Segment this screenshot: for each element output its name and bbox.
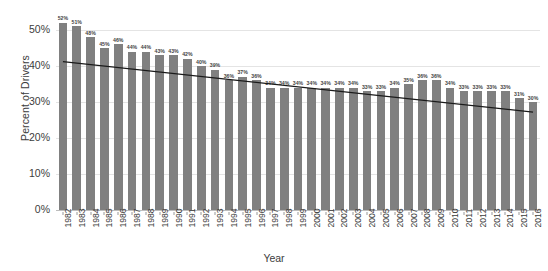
bar[interactable] — [266, 88, 275, 210]
bar-slot: 35% — [402, 12, 416, 210]
bar-value-label: 34% — [320, 80, 330, 86]
bar-slot: 44% — [139, 12, 153, 210]
x-axis-slot: 2000 — [305, 212, 319, 250]
x-axis-slot: 1997 — [263, 212, 277, 250]
bar[interactable] — [169, 55, 178, 210]
x-axis-slot: 1988 — [139, 212, 153, 250]
bar[interactable] — [155, 55, 164, 210]
bar[interactable] — [363, 91, 372, 210]
y-axis-tick-label: 20% — [6, 131, 50, 143]
bar-slot: 46% — [111, 12, 125, 210]
bar-value-label: 34% — [334, 80, 344, 86]
bar[interactable] — [446, 88, 455, 210]
bar[interactable] — [114, 44, 123, 210]
bar[interactable] — [473, 91, 482, 210]
bar[interactable] — [349, 88, 358, 210]
bar[interactable] — [529, 102, 538, 210]
bar[interactable] — [280, 88, 289, 210]
x-axis-labels: 1982198319841985198619871988198919901991… — [56, 212, 540, 250]
x-axis-slot: 1995 — [236, 212, 250, 250]
x-axis-slot: 1996 — [250, 212, 264, 250]
bar[interactable] — [72, 26, 81, 210]
y-axis-tick-label: 30% — [6, 95, 50, 107]
x-axis-slot: 2008 — [416, 212, 430, 250]
bar[interactable] — [487, 91, 496, 210]
bar-slot: 34% — [333, 12, 347, 210]
bar-value-label: 43% — [168, 48, 178, 54]
bar-slot: 30% — [526, 12, 540, 210]
x-axis-slot: 2011 — [457, 212, 471, 250]
bar-value-label: 52% — [58, 15, 68, 21]
bar-slot: 34% — [388, 12, 402, 210]
bar-value-label: 39% — [210, 62, 220, 68]
bar-value-label: 44% — [141, 44, 151, 50]
bar-slot: 34% — [277, 12, 291, 210]
bar[interactable] — [197, 66, 206, 210]
bar-slot: 34% — [346, 12, 360, 210]
bar[interactable] — [211, 70, 220, 210]
bar[interactable] — [142, 52, 151, 210]
bar-slot: 36% — [250, 12, 264, 210]
bar-slot: 37% — [236, 12, 250, 210]
bar[interactable] — [390, 88, 399, 210]
bar-slot: 52% — [56, 12, 70, 210]
bar-value-label: 34% — [445, 80, 455, 86]
bar[interactable] — [432, 80, 441, 210]
bar-value-label: 44% — [127, 44, 137, 50]
bar-value-label: 33% — [459, 84, 469, 90]
bar-value-label: 34% — [265, 80, 275, 86]
x-axis-slot: 1984 — [84, 212, 98, 250]
y-axis-tick-label: 40% — [6, 59, 50, 71]
bar[interactable] — [418, 80, 427, 210]
bar-value-label: 34% — [307, 80, 317, 86]
x-axis-slot: 2005 — [374, 212, 388, 250]
bar[interactable] — [294, 88, 303, 210]
x-axis-slot: 1985 — [97, 212, 111, 250]
bar-slot: 36% — [416, 12, 430, 210]
bar-value-label: 42% — [182, 51, 192, 57]
bar-slot: 33% — [471, 12, 485, 210]
bar[interactable] — [59, 23, 68, 210]
bar-slot: 34% — [305, 12, 319, 210]
bar-value-label: 34% — [293, 80, 303, 86]
bar[interactable] — [321, 88, 330, 210]
bar-slot: 43% — [167, 12, 181, 210]
bar[interactable] — [183, 59, 192, 210]
bar[interactable] — [86, 37, 95, 210]
x-axis-slot: 2016 — [526, 212, 540, 250]
x-axis-slot: 1990 — [167, 212, 181, 250]
bar[interactable] — [252, 80, 261, 210]
x-axis-slot: 1998 — [277, 212, 291, 250]
bar[interactable] — [225, 80, 234, 210]
x-axis-slot: 1994 — [222, 212, 236, 250]
bar[interactable] — [377, 91, 386, 210]
bar-value-label: 40% — [196, 59, 206, 65]
bar-slot: 33% — [360, 12, 374, 210]
bar[interactable] — [335, 88, 344, 210]
x-axis-slot: 2014 — [499, 212, 513, 250]
bar-value-label: 36% — [251, 73, 261, 79]
bar-value-label: 34% — [348, 80, 358, 86]
x-axis-slot: 2015 — [512, 212, 526, 250]
bar[interactable] — [128, 52, 137, 210]
bar[interactable] — [404, 84, 413, 210]
bar[interactable] — [307, 88, 316, 210]
bar-value-label: 33% — [500, 84, 510, 90]
bar-value-label: 34% — [279, 80, 289, 86]
x-axis-slot: 1983 — [70, 212, 84, 250]
x-axis-slot: 2012 — [471, 212, 485, 250]
bar[interactable] — [460, 91, 469, 210]
bar[interactable] — [501, 91, 510, 210]
bar-value-label: 36% — [431, 73, 441, 79]
x-axis-slot: 1986 — [111, 212, 125, 250]
x-axis-slot: 2006 — [388, 212, 402, 250]
x-axis-slot: 2007 — [402, 212, 416, 250]
bar-value-label: 31% — [514, 91, 524, 97]
bar[interactable] — [100, 48, 109, 210]
bar[interactable] — [515, 98, 524, 210]
bar[interactable] — [238, 77, 247, 210]
bar-slot: 44% — [125, 12, 139, 210]
x-axis-slot: 1991 — [180, 212, 194, 250]
bar-slot: 34% — [319, 12, 333, 210]
x-axis-slot: 1999 — [291, 212, 305, 250]
